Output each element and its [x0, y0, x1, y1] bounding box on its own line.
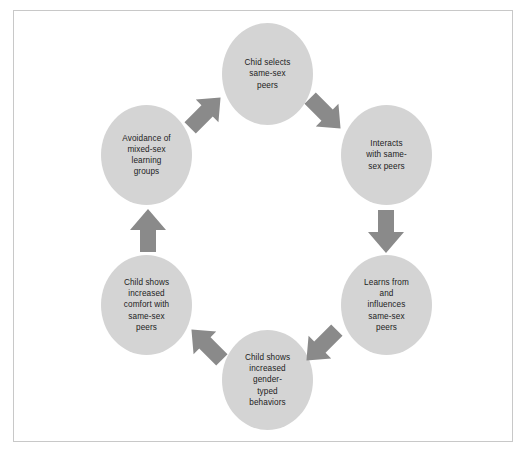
node-label: Learns from and influences same-sex peer…	[360, 277, 413, 333]
node-label: Child shows increased gender- typed beha…	[241, 352, 294, 408]
node-label: Child shows increased comfort with same-…	[120, 277, 173, 333]
arrow-avoidance-to-child-selects-icon	[183, 90, 227, 136]
node-learns-from-and-influences-same-sex-peers: Learns from and influences same-sex peer…	[341, 255, 432, 355]
node-child-shows-increased-gender-typed-behaviors: Child shows increased gender- typed beha…	[222, 330, 313, 430]
node-label: Avoidance of mixed-sex learning groups	[118, 133, 174, 178]
cycle-diagram: Chid selects same-sex peers Interacts wi…	[0, 0, 527, 456]
node-label: Chid selects same-sex peers	[241, 57, 295, 91]
node-child-shows-increased-comfort-with-same-sex-peers: Child shows increased comfort with same-…	[101, 255, 192, 355]
node-child-selects-same-sex-peers: Chid selects same-sex peers	[222, 23, 313, 125]
node-avoidance-of-mixed-sex-learning-groups: Avoidance of mixed-sex learning groups	[101, 105, 192, 205]
arrow-comfort-to-avoidance-icon	[128, 208, 168, 254]
node-interacts-with-same-sex-peers: Interacts with same- sex peers	[341, 105, 432, 205]
node-label: Interacts with same- sex peers	[362, 138, 411, 172]
arrow-gender-typed-to-comfort-icon	[185, 322, 229, 368]
arrow-interacts-to-learns-icon	[366, 208, 406, 254]
arrow-child-selects-to-interacts-icon	[303, 90, 347, 136]
